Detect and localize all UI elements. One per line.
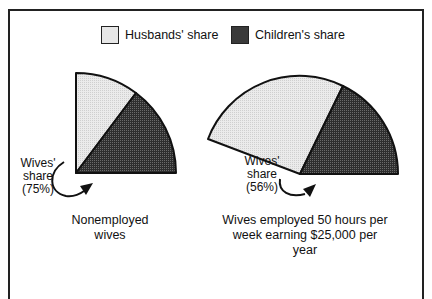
annotation-percent: (56%): [241, 181, 283, 194]
annotation-percent: (75%): [18, 183, 58, 196]
annotation-wives-share-right: Wives' share (56%): [241, 155, 283, 194]
caption-line: wives: [50, 228, 170, 243]
pie-nonemployed: [52, 73, 176, 196]
caption-employed: Wives employed 50 hours per week earning…: [220, 213, 390, 258]
annotation-wives-share-left: Wives' share (75%): [18, 157, 58, 196]
curved-arrow-right: [280, 179, 305, 195]
pie-employed: [208, 76, 398, 197]
caption-line: Nonemployed: [50, 213, 170, 228]
caption-line: Wives employed 50 hours per: [220, 213, 390, 228]
caption-line: week earning $25,000 per year: [220, 228, 390, 258]
caption-nonemployed: Nonemployed wives: [50, 213, 170, 243]
arrowhead-right: [303, 184, 316, 197]
